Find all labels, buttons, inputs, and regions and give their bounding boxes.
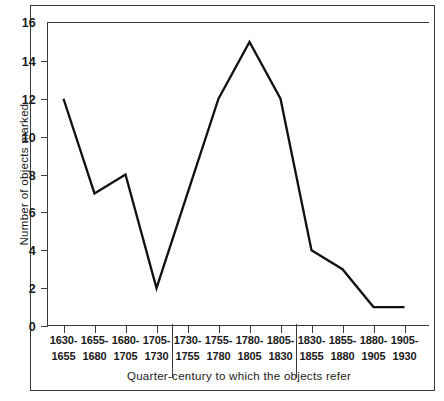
x-label-line-bottom: 1680 — [81, 348, 109, 364]
y-tick-14: 14 — [41, 61, 48, 62]
plot-area: 0246810121416 — [48, 23, 428, 326]
x-tick-label-5: 1755-1780 — [205, 332, 233, 364]
x-label-line-top: 1805- — [267, 332, 295, 348]
x-label-line-top: 1905- — [391, 332, 419, 348]
y-tick-8: 8 — [41, 175, 48, 176]
y-tick-12: 12 — [41, 99, 48, 100]
x-label-line-bottom: 1855 — [298, 348, 326, 364]
x-label-line-top: 1830- — [298, 332, 326, 348]
x-label-line-bottom: 1755 — [174, 348, 202, 364]
x-tick-label-9: 1855-1880 — [329, 332, 357, 364]
x-label-line-top: 1730- — [174, 332, 202, 348]
x-axis-title: Quarter-century to which the objects ref… — [48, 370, 430, 382]
x-label-line-top: 1780- — [236, 332, 264, 348]
x-tick-label-0: 1630-1655 — [50, 332, 78, 364]
x-tick-label-7: 1805-1830 — [267, 332, 295, 364]
x-label-line-top: 1680- — [112, 332, 140, 348]
x-label-line-bottom: 1805 — [236, 348, 264, 364]
x-label-line-top: 1630- — [50, 332, 78, 348]
y-tick-0: 0 — [41, 326, 48, 327]
y-tick-10: 10 — [41, 137, 48, 138]
x-label-line-bottom: 1930 — [391, 348, 419, 364]
x-tick-label-11: 1905-1930 — [391, 332, 419, 364]
x-label-line-bottom: 1655 — [50, 348, 78, 364]
x-tick-label-6: 1780-1805 — [236, 332, 264, 364]
x-tick-label-4: 1730-1755 — [174, 332, 202, 364]
x-label-line-bottom: 1830 — [267, 348, 295, 364]
x-label-line-bottom: 1905 — [360, 348, 388, 364]
x-label-line-bottom: 1730 — [143, 348, 171, 364]
y-tick-4: 4 — [41, 250, 48, 251]
x-tick-label-3: 1705-1730 — [143, 332, 171, 364]
y-tick-6: 6 — [41, 212, 48, 213]
x-tick-label-10: 1880-1905 — [360, 332, 388, 364]
y-tick-2: 2 — [41, 288, 48, 289]
chart-figure: 0246810121416 1630-16551655-16801680-170… — [0, 0, 444, 401]
x-label-line-top: 1755- — [205, 332, 233, 348]
x-label-line-top: 1855- — [329, 332, 357, 348]
data-series-line — [48, 23, 428, 326]
y-axis-title: Number of objects marked — [18, 23, 30, 326]
x-label-line-bottom: 1780 — [205, 348, 233, 364]
x-tick-label-8: 1830-1855 — [298, 332, 326, 364]
x-label-line-top: 1705- — [143, 332, 171, 348]
x-label-line-top: 1880- — [360, 332, 388, 348]
x-label-line-bottom: 1705 — [112, 348, 140, 364]
x-label-line-top: 1655- — [81, 332, 109, 348]
x-label-line-bottom: 1880 — [329, 348, 357, 364]
x-tick-label-2: 1680-1705 — [112, 332, 140, 364]
x-axis-tick-labels: 1630-16551655-16801680-17051705-17301730… — [48, 332, 430, 370]
x-tick-label-1: 1655-1680 — [81, 332, 109, 364]
